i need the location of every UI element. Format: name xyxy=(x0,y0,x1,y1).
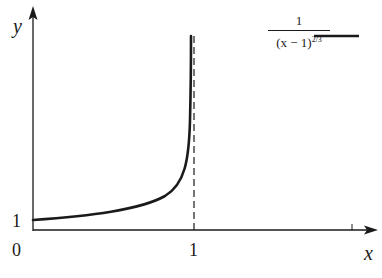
x-tick-label-1: 1 xyxy=(189,241,198,259)
legend-numerator: 1 xyxy=(268,14,330,28)
legend-label: 1 (x − 1)2/3 xyxy=(268,14,330,50)
fraction-bar xyxy=(268,30,330,31)
y-axis-label: y xyxy=(13,16,22,36)
function-curve xyxy=(33,36,191,220)
y-tick-label-1: 1 xyxy=(12,212,21,230)
legend-denominator-exp: 2/3 xyxy=(312,35,322,44)
legend: 1 (x − 1)2/3 xyxy=(268,14,368,58)
origin-label: 0 xyxy=(12,241,21,259)
legend-denominator: (x − 1)2/3 xyxy=(268,33,330,50)
x-axis-label: x xyxy=(364,243,373,263)
legend-denominator-base: (x − 1) xyxy=(276,35,312,50)
